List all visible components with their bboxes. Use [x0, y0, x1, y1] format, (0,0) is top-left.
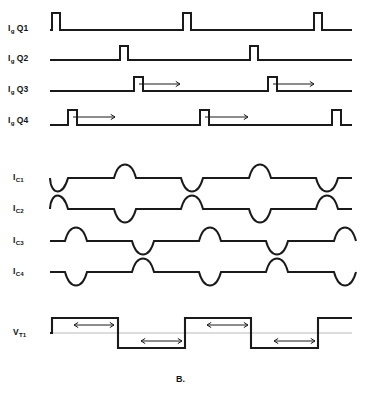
- waveform-label-ic3: IC3: [13, 236, 24, 245]
- waveform-label-ig-q1: Ig Q1: [8, 24, 28, 33]
- waveform-label-ic2: IC2: [13, 204, 24, 213]
- waveform-label-ic1: IC1: [13, 173, 24, 182]
- waveform-traces: [0, 0, 366, 399]
- waveform-label-vt1: VT1: [13, 328, 26, 337]
- waveform-label-ic4: IC4: [13, 267, 24, 276]
- waveform-label-ig-q3: Ig Q3: [8, 85, 28, 94]
- waveform-figure: Ig Q1 Ig Q2 Ig Q3 Ig Q4 IC1 IC2 IC3 IC4 …: [0, 0, 366, 399]
- waveform-label-ig-q2: Ig Q2: [8, 54, 28, 63]
- waveform-label-ig-q4: Ig Q4: [8, 116, 28, 125]
- figure-part-label: B.: [176, 374, 185, 384]
